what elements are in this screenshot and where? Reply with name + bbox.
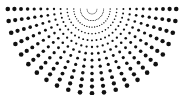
pattern-dot — [74, 34, 76, 36]
pattern-dot — [6, 19, 11, 24]
pattern-dot — [95, 12, 96, 13]
pattern-dot — [99, 71, 103, 75]
pattern-dot — [110, 24, 112, 26]
pattern-dot — [48, 72, 52, 76]
pattern-dot — [155, 49, 159, 53]
pattern-dot — [123, 28, 125, 30]
pattern-dot — [70, 22, 72, 24]
pattern-dot — [92, 14, 93, 15]
pattern-dot — [115, 45, 118, 48]
pattern-dot — [128, 32, 131, 35]
pattern-dot — [92, 20, 93, 21]
pattern-dot — [173, 19, 178, 24]
pattern-dot — [112, 22, 114, 24]
pattern-dot — [85, 18, 86, 19]
pattern-dot — [67, 15, 69, 17]
pattern-dot — [46, 8, 49, 11]
pattern-dot — [9, 30, 14, 35]
pattern-dot — [58, 77, 62, 81]
pattern-dot — [91, 39, 93, 41]
pattern-dot — [19, 52, 24, 57]
pattern-dot — [70, 40, 72, 42]
pattern-dot — [75, 42, 77, 44]
pattern-dot — [128, 13, 130, 15]
pattern-dot — [19, 7, 23, 11]
pattern-dot — [161, 7, 165, 11]
pattern-dot — [56, 24, 58, 26]
pattern-dot — [146, 24, 149, 27]
pattern-dot — [53, 51, 56, 54]
pattern-dot — [91, 46, 93, 48]
pattern-dot — [120, 21, 122, 23]
pattern-dot — [111, 40, 113, 42]
pattern-dot — [22, 27, 26, 31]
pattern-dot — [90, 78, 94, 82]
pattern-dot — [158, 27, 162, 31]
pattern-dot — [72, 48, 75, 51]
pattern-dot — [97, 9, 98, 10]
pattern-dot — [75, 27, 77, 29]
pattern-dot — [115, 15, 117, 17]
pattern-dot — [161, 52, 166, 57]
pattern-dot — [148, 7, 151, 10]
pattern-dot — [135, 8, 138, 11]
pattern-dot — [112, 81, 116, 85]
pattern-dot — [66, 87, 71, 92]
pattern-dot — [57, 46, 60, 49]
pattern-dot — [103, 9, 104, 10]
pattern-dot — [87, 11, 88, 12]
pattern-dot — [97, 9, 98, 10]
pattern-dot — [116, 12, 118, 14]
pattern-dot — [96, 11, 97, 12]
pattern-dot — [114, 19, 116, 21]
pattern-dot — [108, 69, 112, 73]
pattern-dot — [84, 25, 85, 26]
pattern-dot — [55, 61, 59, 65]
pattern-dot — [91, 14, 92, 15]
pattern-dot — [69, 54, 72, 57]
pattern-dot — [97, 52, 100, 55]
pattern-dot — [26, 7, 30, 11]
pattern-dot — [69, 19, 71, 21]
pattern-dot — [42, 49, 46, 53]
pattern-dot — [90, 20, 91, 21]
pattern-dot — [87, 39, 89, 41]
pattern-dot — [47, 14, 50, 17]
pattern-dot — [89, 26, 90, 27]
pattern-dot — [104, 37, 106, 39]
pattern-dot — [6, 7, 11, 12]
pattern-dot — [120, 33, 122, 35]
pattern-dot — [73, 8, 74, 9]
pattern-dot — [30, 45, 34, 49]
pattern-dot — [88, 12, 89, 13]
pattern-dot — [68, 81, 72, 85]
pattern-dot — [90, 13, 91, 14]
pattern-dot — [39, 66, 43, 70]
pattern-dot — [122, 13, 124, 15]
pattern-dot — [164, 29, 168, 33]
pattern-dot — [63, 66, 67, 70]
pattern-dot — [75, 16, 76, 17]
pattern-dot — [128, 67, 132, 71]
pattern-dot — [112, 54, 115, 57]
pattern-dot — [153, 62, 158, 67]
pattern-dot — [109, 11, 110, 12]
pattern-dot — [102, 31, 104, 33]
pattern-dot — [59, 28, 61, 30]
pattern-dot — [32, 34, 36, 38]
pattern-dot — [155, 7, 159, 11]
pattern-dot — [134, 45, 137, 48]
pattern-dot — [145, 70, 150, 75]
pattern-dot — [107, 18, 108, 19]
pattern-dot — [122, 8, 124, 10]
pattern-dot — [110, 8, 111, 9]
pattern-dot — [62, 21, 64, 23]
pattern-dot — [90, 65, 93, 68]
pattern-dot — [88, 20, 89, 21]
pattern-dot — [125, 24, 127, 26]
pattern-dot — [76, 18, 77, 19]
pattern-dot — [79, 22, 80, 23]
pattern-dot — [87, 9, 88, 10]
pattern-dot — [160, 17, 164, 21]
pattern-dot — [167, 18, 171, 22]
